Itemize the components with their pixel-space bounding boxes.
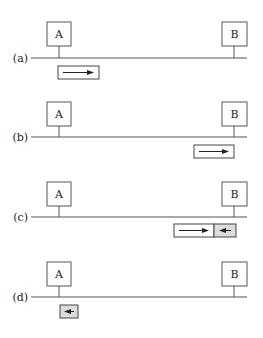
- station-b-label: B: [230, 268, 238, 281]
- panel-label: (b): [12, 131, 28, 144]
- panel-b: (b) A B: [12, 102, 247, 158]
- bus-diagram: (a) A B (b) A B (c) A: [0, 0, 263, 338]
- panel-c: (c) A B: [13, 182, 247, 237]
- frame-left-shaded: [214, 224, 236, 237]
- frame-left-shaded: [60, 305, 78, 318]
- panel-label: (d): [12, 291, 28, 304]
- station-b-label: B: [230, 28, 238, 41]
- panel-label: (a): [13, 52, 28, 65]
- station-a-label: A: [54, 28, 64, 41]
- station-b-label: B: [230, 108, 238, 121]
- station-b-label: B: [230, 188, 238, 201]
- panel-a: (a) A B: [13, 22, 247, 79]
- panel-label: (c): [13, 211, 28, 224]
- frame-right: [58, 66, 99, 79]
- frame-right: [174, 224, 214, 237]
- frame-right: [194, 145, 234, 158]
- station-a-label: A: [54, 268, 64, 281]
- panel-d: (d) A B: [12, 262, 247, 318]
- station-a-label: A: [54, 188, 64, 201]
- station-a-label: A: [54, 108, 64, 121]
